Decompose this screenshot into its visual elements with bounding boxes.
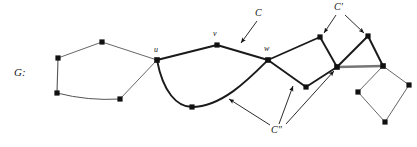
vertex-q1 bbox=[317, 34, 322, 39]
vertex-label-u: u bbox=[154, 46, 158, 54]
vertex-t2 bbox=[380, 63, 386, 69]
vertex-m bbox=[189, 104, 194, 109]
edge-p2-u bbox=[102, 42, 157, 60]
arrow-c bbox=[241, 21, 257, 43]
vertex-v bbox=[214, 42, 219, 47]
edge-s1-t2 bbox=[358, 66, 383, 92]
edge-t2-s3 bbox=[383, 66, 409, 85]
edge-q2-t2 bbox=[337, 66, 383, 67]
graph-name-label: G: bbox=[14, 67, 26, 78]
cycle-label-c-double-prime: C″ bbox=[271, 125, 282, 135]
arrow-c-prime-left bbox=[324, 15, 336, 33]
thin-edge-group-right bbox=[358, 66, 409, 122]
edge-u-m-w bbox=[157, 60, 268, 107]
edge-q3-q2 bbox=[306, 67, 337, 87]
vertex-p5 bbox=[54, 90, 59, 95]
edge-p4-u bbox=[120, 60, 157, 99]
arrow-c-double-prime-left bbox=[229, 99, 270, 125]
edge-u-v bbox=[157, 45, 217, 60]
vertex-w bbox=[265, 57, 271, 63]
edge-q1-q2 bbox=[320, 37, 337, 67]
edge-p1-p2 bbox=[58, 42, 102, 58]
vertex-t1 bbox=[365, 33, 370, 38]
edge-t1-t2 bbox=[368, 36, 383, 66]
vertex-p1 bbox=[55, 55, 60, 60]
vertex-s2 bbox=[382, 119, 387, 124]
edge-p1-p5 bbox=[57, 58, 58, 93]
edge-p5-p4 bbox=[57, 93, 120, 99]
vertex-q3 bbox=[303, 84, 308, 89]
figure-canvas: G: u v w C C′ C″ bbox=[0, 0, 417, 147]
annotation-arrow-group bbox=[229, 15, 364, 125]
vertex-p2 bbox=[99, 39, 104, 44]
vertex-label-w: w bbox=[264, 45, 269, 53]
edge-s3-s2 bbox=[385, 85, 409, 122]
arrow-c-prime-right bbox=[345, 15, 364, 33]
edge-s2-s1 bbox=[358, 92, 385, 122]
bold-edge-group bbox=[157, 36, 383, 107]
edge-v-w bbox=[217, 45, 268, 60]
edge-w-q1 bbox=[268, 37, 320, 60]
vertex-label-v: v bbox=[213, 30, 217, 38]
vertex-s1 bbox=[355, 89, 360, 94]
cycle-label-c: C bbox=[255, 8, 262, 18]
vertex-q2 bbox=[334, 64, 340, 70]
edge-w-q3 bbox=[268, 60, 306, 87]
vertex-s3 bbox=[406, 82, 411, 87]
vertex-u bbox=[154, 57, 160, 63]
edge-q2-t1 bbox=[337, 36, 368, 67]
thin-edge-group bbox=[57, 42, 157, 99]
vertex-p4 bbox=[117, 96, 122, 101]
cycle-label-c-prime: C′ bbox=[334, 2, 343, 12]
graph-drawing bbox=[0, 0, 417, 147]
